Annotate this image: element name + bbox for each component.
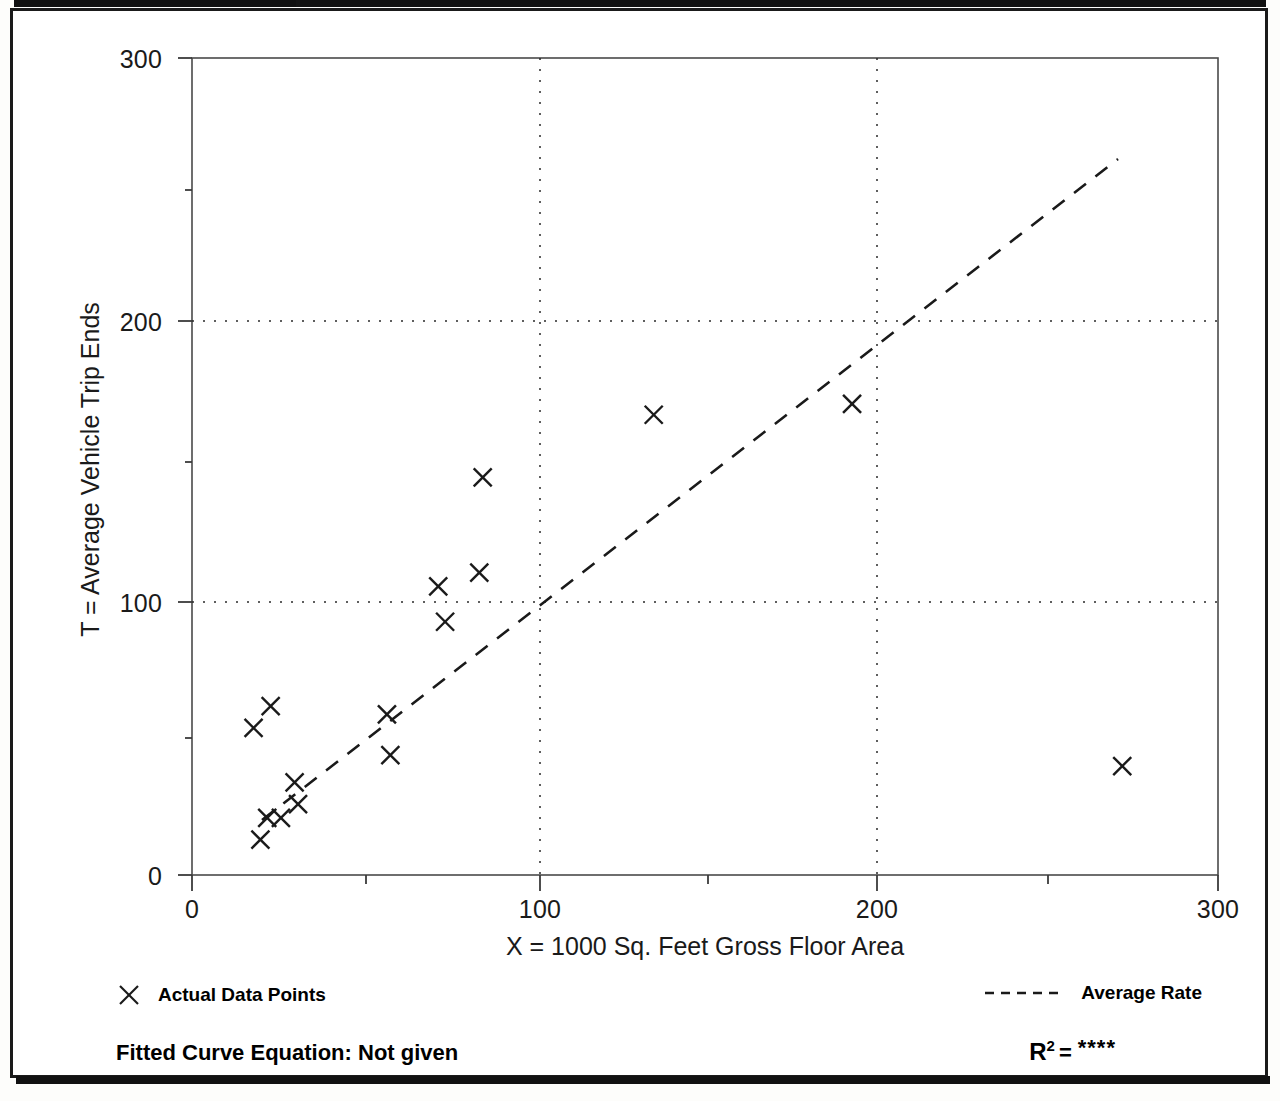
- r-squared-exponent: 2: [1047, 1037, 1055, 1054]
- legend-label-actual-data-points: Actual Data Points: [158, 984, 326, 1006]
- y-tick-label-0: 0: [52, 862, 162, 891]
- x-tick-label-300: 300: [1168, 895, 1268, 924]
- r-squared-value: ****: [1078, 1035, 1116, 1061]
- legend-average-rate: Average Rate: [983, 982, 1202, 1004]
- dashed-line-icon: [983, 987, 1063, 999]
- x-tick-label-100: 100: [490, 895, 590, 924]
- r-squared-letter: R: [1029, 1038, 1046, 1066]
- r-squared-block: R2=****: [1029, 1038, 1116, 1066]
- legend-label-average-rate: Average Rate: [1081, 982, 1202, 1004]
- legend-actual-data-points: Actual Data Points: [116, 982, 326, 1008]
- r-squared-equals: =: [1059, 1040, 1072, 1066]
- plot-border: [192, 58, 1218, 875]
- fitted-curve-equation: Fitted Curve Equation: Not given: [116, 1040, 458, 1066]
- plot-frame: [192, 58, 1218, 875]
- x-tick-label-200: 200: [827, 895, 927, 924]
- x-axis-title: X = 1000 Sq. Feet Gross Floor Area: [192, 932, 1218, 961]
- y-tick-label-200: 200: [52, 308, 162, 337]
- scatter-chart: 0 100 200 300 0 100 200 300 T = Average …: [0, 0, 1280, 1101]
- x-marker-icon: [116, 982, 142, 1008]
- y-tick-label-100: 100: [52, 589, 162, 618]
- y-tick-label-300: 300: [52, 45, 162, 74]
- x-tick-label-0: 0: [142, 895, 242, 924]
- y-axis-title: T = Average Vehicle Trip Ends: [76, 260, 105, 680]
